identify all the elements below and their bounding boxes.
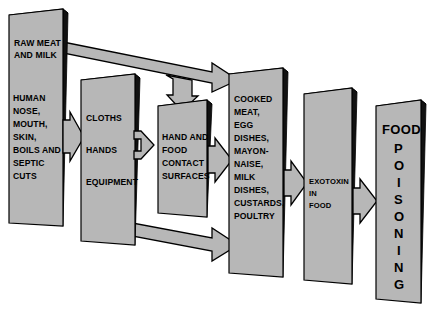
cooked-foods-line-1: COOKED — [234, 94, 272, 104]
cooked-foods-line-6: NAISE, — [234, 159, 263, 169]
human-sources-line-2: NOSE, — [13, 106, 40, 116]
food-poisoning-letter-n2: N — [394, 260, 404, 275]
cooked-foods-line-7: MILK — [234, 172, 256, 182]
cooked-foods-line-8: DISHES, — [234, 185, 269, 195]
cooked-foods-line-2: MEAT, — [234, 107, 260, 117]
food-poisoning-letter-n1: N — [394, 226, 404, 241]
human-sources-line-4: SKIN, — [13, 132, 36, 142]
exotoxin-line-1: EXOTOXIN — [309, 177, 349, 186]
raw-meat-line-1: RAW MEAT — [14, 38, 62, 48]
cooked-foods-line-9: CUSTARDS, — [234, 198, 284, 208]
exotoxin-in-food-box — [304, 88, 357, 284]
raw-meat-line-2: AND MILK — [14, 50, 58, 60]
contact-surfaces-line-2: FOOD — [162, 145, 187, 155]
cloths-line-3: HANDS — [86, 145, 117, 155]
food-poisoning-line-1: FOOD — [382, 122, 421, 137]
cooked-foods-line-5: MAYON- — [234, 146, 269, 156]
human-sources-line-7: CUTS — [13, 171, 37, 181]
contact-surfaces-line-1: HAND AND — [162, 132, 208, 142]
cooked-foods-line-3: EGG — [234, 120, 254, 130]
contact-surfaces-line-3: CONTACT — [162, 158, 205, 168]
food-poisoning-letter-i1: I — [397, 175, 401, 190]
arrow-exotoxin-to-food-poisoning — [353, 179, 377, 223]
food-poisoning-letter-p: P — [394, 141, 403, 156]
cloths-line-5: EQUIPMENT — [86, 177, 139, 187]
human-sources-line-1: HUMAN — [13, 93, 45, 103]
exotoxin-line-2: IN — [309, 189, 317, 198]
contact-surfaces-line-4: SURFACES — [162, 171, 210, 181]
food-poisoning-letter-o2: O — [394, 209, 405, 224]
cloths-line-1: CLOTHS — [86, 113, 122, 123]
flowchart-svg: RAW MEAT AND MILK HUMAN NOSE, MOUTH, SKI… — [0, 0, 441, 317]
food-poisoning-letter-i2: I — [397, 243, 401, 258]
diagram-canvas: RAW MEAT AND MILK HUMAN NOSE, MOUTH, SKI… — [0, 0, 441, 317]
exotoxin-line-3: FOOD — [309, 201, 332, 210]
cooked-foods-line-4: DISHES, — [234, 133, 269, 143]
food-poisoning-letter-o1: O — [394, 158, 405, 173]
human-sources-line-6: SEPTIC — [13, 158, 45, 168]
cooked-foods-line-10: POULTRY — [234, 211, 275, 221]
human-sources-line-5: BOILS AND — [13, 145, 61, 155]
food-poisoning-letter-s: S — [394, 192, 403, 207]
human-sources-line-3: MOUTH, — [13, 119, 48, 129]
food-poisoning-letter-g: G — [394, 277, 405, 292]
cloths-hands-equipment-box — [81, 74, 140, 245]
